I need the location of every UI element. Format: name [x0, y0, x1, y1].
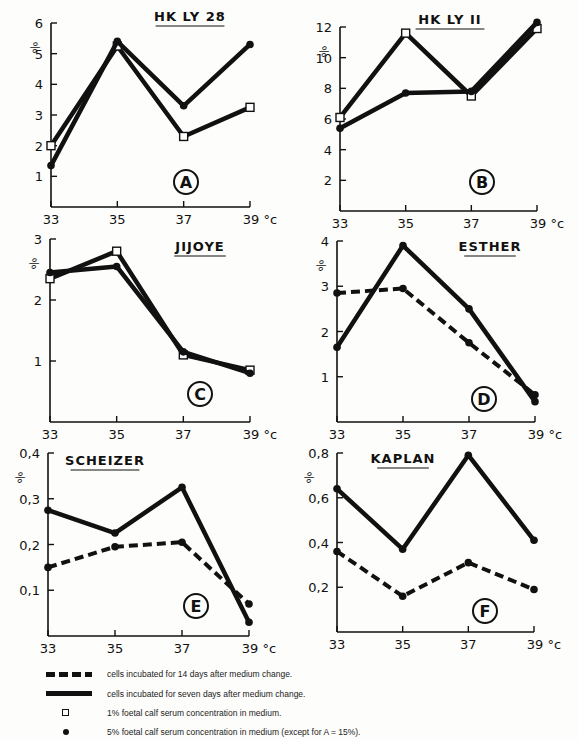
x-tick-label: 35	[107, 641, 124, 656]
y-tick-label: 3	[321, 279, 329, 294]
dot-marker	[333, 485, 341, 493]
panel-title: JIJOYE	[174, 239, 224, 254]
square-marker	[113, 247, 121, 255]
dot-marker	[246, 369, 254, 377]
dot-marker	[178, 484, 186, 492]
y-axis-label: %	[11, 470, 27, 486]
x-tick-label: 37	[463, 216, 480, 231]
chart-panel-e: 33353739 °c0,10,20,30,4%SCHEIZERE	[11, 446, 276, 656]
dot-marker	[399, 592, 407, 600]
y-tick-label: 4	[324, 143, 332, 158]
x-tick-label: 37	[461, 427, 478, 442]
dot-marker	[399, 545, 407, 553]
x-tick-label: 35	[109, 212, 126, 227]
figure-panels: 33353739 °c123456%HK LY 28A33353739 °c24…	[0, 0, 579, 660]
dot-marker	[333, 548, 341, 556]
dot-marker	[465, 559, 473, 567]
dot-marker	[333, 289, 341, 297]
x-tick-label: 39 °c	[528, 427, 562, 442]
square-marker	[47, 142, 55, 150]
y-tick-label: 4	[321, 234, 329, 249]
y-tick-label: 1	[34, 354, 42, 369]
dot-marker	[399, 285, 407, 293]
dot-marker	[465, 451, 473, 459]
legend-item-dashed: cells incubated for 14 days after medium…	[0, 665, 579, 683]
y-axis-label: %	[312, 258, 328, 274]
square-marker	[402, 29, 410, 37]
dot-marker	[531, 398, 539, 406]
y-tick-label: 2	[324, 173, 332, 188]
dot-marker	[399, 242, 407, 250]
y-tick-label: 0,4	[19, 446, 40, 461]
y-tick-label: 6	[324, 112, 332, 127]
x-tick-label: 33	[332, 216, 349, 231]
panel-letter: E	[191, 597, 202, 616]
series-line	[337, 246, 535, 402]
panel-title: HK LY 28	[154, 9, 226, 24]
x-tick-label: 39 °c	[527, 637, 561, 652]
x-tick-label: 33	[40, 641, 57, 656]
square-marker	[246, 103, 254, 111]
y-tick-label: 0,3	[19, 492, 40, 507]
y-tick-label: 0,1	[19, 583, 40, 598]
dot-marker	[465, 305, 473, 313]
legend-item-solid: cells incubated for seven days after med…	[0, 685, 579, 703]
y-tick-label: 1	[321, 370, 329, 385]
series-line	[48, 487, 249, 622]
dot-marker	[333, 344, 341, 352]
legend: cells incubated for 14 days after medium…	[0, 660, 579, 739]
y-tick-label: 4	[35, 77, 43, 92]
panel-letter: F	[480, 602, 491, 621]
chart-panel-d: 33353739 °c1234%ESTHERD	[312, 234, 562, 442]
panel-title: HK LY II	[418, 12, 481, 27]
y-axis-label: %	[25, 256, 41, 272]
x-tick-label: 39 °c	[243, 212, 277, 227]
y-tick-label: 0,6	[308, 491, 329, 506]
x-tick-label: 35	[397, 216, 414, 231]
dot-marker	[468, 88, 476, 96]
chart-panel-a: 33353739 °c123456%HK LY 28A	[26, 9, 277, 227]
dot-marker	[44, 506, 52, 514]
y-tick-label: 3	[34, 232, 42, 247]
x-tick-label: 37	[460, 637, 477, 652]
x-tick-label: 37	[175, 427, 192, 442]
dot-marker-icon	[63, 729, 69, 735]
y-tick-label: 0,2	[19, 538, 40, 553]
panel-letter: C	[194, 385, 206, 404]
dot-marker	[245, 600, 253, 608]
y-tick-label: 1	[35, 169, 43, 184]
legend-label: cells incubated for 14 days after medium…	[107, 665, 292, 683]
legend-label: cells incubated for seven days after med…	[107, 685, 305, 703]
chart-panel-b: 33353739 °c24681012%HK LY IIB	[315, 12, 564, 231]
series-line	[50, 266, 250, 373]
y-tick-label: 6	[35, 16, 43, 31]
x-tick-label: 33	[329, 637, 346, 652]
y-tick-label: 3	[35, 108, 43, 123]
dot-marker	[178, 538, 186, 546]
x-tick-label: 33	[329, 427, 346, 442]
y-tick-label: 2	[35, 139, 43, 154]
dot-marker	[44, 564, 52, 572]
series-line	[48, 542, 249, 604]
x-tick-label: 35	[395, 427, 412, 442]
panel-title: ESTHER	[459, 239, 522, 254]
panel-letter: D	[477, 390, 490, 409]
x-tick-label: 33	[43, 212, 60, 227]
y-tick-label: 0,8	[308, 446, 329, 461]
y-tick-label: 2	[34, 293, 42, 308]
dot-marker	[113, 263, 121, 271]
x-tick-label: 39 °c	[530, 216, 564, 231]
y-tick-label: 0,4	[308, 536, 329, 551]
panel-letter: A	[180, 173, 193, 192]
series-line	[340, 22, 537, 128]
series-line	[337, 455, 534, 549]
panel-letter: B	[476, 173, 488, 192]
dot-marker	[47, 162, 55, 170]
square-marker	[180, 132, 188, 140]
chart-panel-c: 33353739 °c123%JIJOYEC	[25, 232, 277, 442]
x-tick-label: 39 °c	[243, 427, 277, 442]
series-line	[337, 551, 534, 596]
legend-item-dot: 5% foetal calf serum concentration in me…	[0, 723, 579, 739]
dot-marker	[402, 89, 410, 97]
dot-marker	[533, 19, 541, 27]
